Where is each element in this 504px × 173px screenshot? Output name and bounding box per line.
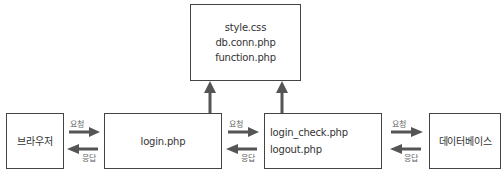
database-label: 데이터베이스 xyxy=(439,134,492,149)
browser-box: 브라우저 xyxy=(6,113,64,169)
file-function: function.php xyxy=(215,50,276,65)
file-db-conn: db.conn.php xyxy=(215,35,275,50)
browser-label: 브라우저 xyxy=(17,134,52,149)
database-box: 데이터베이스 xyxy=(429,113,501,169)
file-style-css: style.css xyxy=(225,20,266,35)
response-label-1: 응답 xyxy=(82,152,96,163)
arrow-login-to-top xyxy=(204,81,216,113)
login-php-label: login.php xyxy=(141,134,186,149)
request-label-1: 요청 xyxy=(70,118,84,129)
arrow-check-to-top xyxy=(276,81,288,113)
file-logout: logout.php xyxy=(270,141,322,158)
response-label-3: 응답 xyxy=(404,152,418,163)
login-php-box: login.php xyxy=(104,113,222,169)
file-login-check: login_check.php xyxy=(270,124,348,141)
response-label-2: 응답 xyxy=(241,152,255,163)
request-label-3: 요청 xyxy=(392,118,406,129)
login-check-box: login_check.php logout.php xyxy=(264,113,382,169)
shared-files-box: style.css db.conn.php function.php xyxy=(190,4,301,81)
request-label-2: 요청 xyxy=(229,118,243,129)
